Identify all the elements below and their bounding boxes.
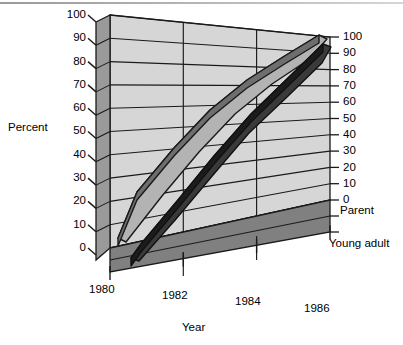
right-axis-tick-label: 30: [343, 145, 356, 157]
right-axis-tick-label: 40: [343, 129, 356, 141]
y-tick-label: 40: [56, 149, 86, 161]
right-axis-tick-label: 10: [343, 178, 356, 190]
right-axis-tick-label: 100: [343, 31, 362, 43]
y-tick-label: 50: [56, 125, 86, 137]
x-tick-label: 1986: [304, 303, 330, 315]
left-axis-ticks: [88, 15, 96, 255]
y-tick-label: 70: [56, 79, 86, 91]
y-tick-label: 90: [56, 32, 86, 44]
series-label-young-adult: Young adult: [329, 238, 389, 250]
y-tick-label: 20: [56, 195, 86, 207]
right-axis-tick-label: 60: [343, 96, 356, 108]
y-tick-label: 80: [56, 56, 86, 68]
chart-frame: Percent 100 90 80 70 60 50 40 30 20 10 0…: [0, 0, 403, 345]
x-tick-label: 1980: [89, 284, 115, 296]
x-axis-title: Year: [182, 322, 205, 334]
y-tick-label: 0: [56, 242, 86, 254]
y-tick-label: 60: [56, 102, 86, 114]
right-axis-tick-label: 50: [343, 113, 356, 125]
right-axis-ticks: [330, 37, 339, 232]
x-tick-label: 1984: [235, 296, 261, 308]
right-axis-tick-label: 90: [343, 47, 356, 59]
right-axis-tick-label: 70: [343, 80, 356, 92]
y-tick-label: 30: [56, 172, 86, 184]
y-axis-title: Percent: [8, 122, 48, 134]
series-label-parent: Parent: [340, 205, 374, 217]
right-axis-tick-label: 80: [343, 64, 356, 76]
y-tick-label: 100: [56, 9, 86, 21]
y-tick-label: 10: [56, 219, 86, 231]
right-axis-tick-label: 20: [343, 162, 356, 174]
x-tick-label: 1982: [162, 290, 188, 302]
